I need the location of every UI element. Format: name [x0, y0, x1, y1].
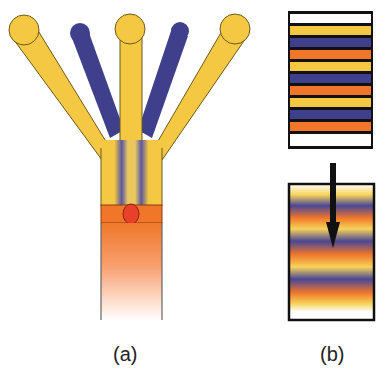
panel-a-label: (a) [113, 343, 137, 366]
panel-b-label: (b) [320, 343, 344, 366]
droplet [123, 204, 139, 224]
outlet-channel [101, 223, 162, 320]
panel-a [9, 14, 250, 320]
diagram-figure [0, 0, 385, 384]
mixing-channel [101, 140, 162, 206]
panel-b-laminated-layers [288, 11, 373, 149]
yellow-inlet-center [115, 14, 145, 150]
